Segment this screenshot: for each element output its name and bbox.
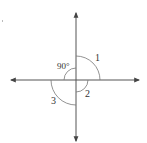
stray-mark bbox=[2, 20, 3, 22]
angle-90-label: 90° bbox=[57, 61, 70, 71]
angle-3-label: 3 bbox=[51, 95, 56, 106]
angle-2-label: 2 bbox=[85, 88, 90, 99]
angle-1-label: 1 bbox=[95, 52, 100, 63]
angle-diagram: 1 90° 2 3 bbox=[0, 0, 147, 143]
